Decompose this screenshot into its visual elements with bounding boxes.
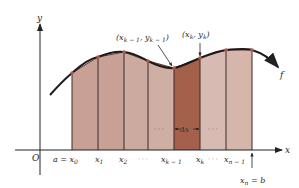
strip-6 bbox=[200, 50, 226, 150]
tick-xn-1: xn − 1 bbox=[224, 155, 245, 165]
tick-ellipsis-2: · · · bbox=[208, 155, 218, 162]
delta-x-label: Δx bbox=[179, 126, 189, 134]
y-axis-label: y bbox=[36, 13, 43, 23]
strip-7 bbox=[226, 50, 252, 150]
tick-labels: a = x0 x1 x2 · · · xk − 1 xk · · · xn − … bbox=[53, 155, 245, 165]
strip-highlight bbox=[174, 58, 200, 150]
riemann-diagram: y x O f (xk − 1, yk − 1) (xk, yk) Δx · ·… bbox=[0, 0, 299, 188]
ellipsis-left: · · · bbox=[154, 125, 164, 132]
point-label-left: (xk − 1, yk − 1) bbox=[116, 33, 169, 43]
tick-a-x0: a = x0 bbox=[53, 155, 78, 165]
tick-xk: xk bbox=[196, 155, 205, 165]
tick-x1: x1 bbox=[95, 155, 103, 165]
tick-ellipsis-1: · · · bbox=[138, 155, 148, 162]
function-label: f bbox=[279, 70, 285, 80]
point-label-right: (xk, yk) bbox=[182, 30, 210, 40]
strip-2 bbox=[98, 52, 124, 150]
strip-4 bbox=[148, 61, 174, 150]
origin-label: O bbox=[32, 153, 40, 163]
strip-3 bbox=[124, 52, 148, 150]
pointer-left bbox=[158, 45, 172, 66]
tick-x2: x2 bbox=[119, 155, 128, 165]
ellipsis-right: · · · bbox=[208, 125, 218, 132]
x-axis-label: x bbox=[285, 145, 290, 155]
tick-xk-1: xk − 1 bbox=[161, 155, 182, 165]
end-label-xn-b: xn = b bbox=[240, 176, 265, 186]
